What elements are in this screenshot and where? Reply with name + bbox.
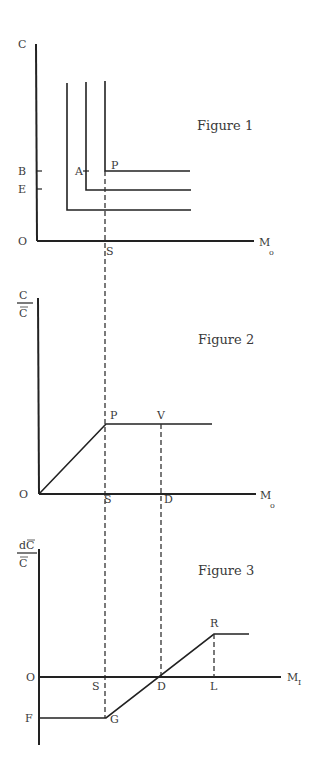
three-figure-diagram: C B E O A P S M o Figure 1 C C O P V S D… — [0, 0, 317, 780]
fig2-curve — [39, 424, 212, 494]
fig3-y-label-num: dC — [19, 539, 34, 552]
figure-1: C B E O A P S M o Figure 1 — [18, 38, 274, 258]
fig1-label-p: P — [111, 159, 119, 172]
fig1-curve-outer — [105, 81, 190, 171]
fig3-label-r: R — [210, 617, 219, 630]
figure-2: C C O P V S D M o Figure 2 — [17, 289, 275, 677]
fig3-label-s: S — [92, 680, 100, 693]
fig1-label-origin: O — [18, 235, 27, 248]
fig2-y-label-num: C — [19, 289, 27, 302]
fig3-label-l: L — [210, 680, 218, 693]
fig2-label-p: P — [110, 409, 118, 422]
fig2-label-v: V — [156, 409, 166, 422]
fig2-y-label-den: C — [19, 307, 27, 320]
fig2-label-s: S — [104, 493, 112, 506]
fig3-title: Figure 3 — [198, 563, 254, 578]
fig3-x-label: M — [287, 671, 298, 684]
fig2-title: Figure 2 — [198, 332, 254, 347]
fig1-y-axis — [36, 44, 37, 241]
fig3-x-label-sub: I — [298, 678, 301, 687]
fig1-x-label-sub: o — [269, 248, 274, 257]
fig1-label-s: S — [106, 245, 114, 258]
fig2-x-label-sub: o — [270, 501, 275, 510]
fig3-label-origin: O — [26, 671, 35, 684]
fig3-label-d: D — [157, 680, 166, 693]
figure-3: dC C O F S G D L R M I Figure 3 — [17, 539, 301, 745]
fig3-y-label-den: C — [19, 557, 27, 570]
fig1-curve-middle — [86, 82, 191, 190]
fig2-label-origin: O — [19, 488, 28, 501]
fig1-label-b: B — [18, 165, 26, 178]
fig1-title: Figure 1 — [197, 118, 253, 133]
fig3-label-f: F — [25, 712, 33, 725]
fig2-label-d: D — [164, 493, 173, 506]
fig1-y-label: C — [18, 38, 26, 51]
fig3-label-g: G — [110, 713, 119, 726]
fig1-label-a: A — [74, 165, 84, 178]
fig2-y-axis — [38, 298, 39, 494]
fig1-label-e: E — [18, 183, 26, 196]
